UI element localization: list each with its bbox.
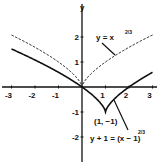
x-tick-label: -3 <box>5 91 13 100</box>
x-tick-label: 3 <box>147 91 152 100</box>
series-label-solid: y + 1 = (x − 1) <box>90 134 141 143</box>
series-label-solid-exponent: 2/3 <box>138 129 145 135</box>
x-tick-label: -2 <box>28 91 36 100</box>
x-tick-label: -1 <box>52 91 60 100</box>
y-tick-label: -1 <box>72 108 80 117</box>
y-tick-label: 1 <box>75 58 80 67</box>
chart: -3-2-112321-1-2 y y = x 2/3 y + 1 = (x −… <box>0 0 158 162</box>
dashed-label-leader <box>102 43 115 55</box>
x-tick-label: 1 <box>100 91 105 100</box>
series-label-dashed-exponent: 2/3 <box>125 29 132 35</box>
y-tick-label: 2 <box>75 33 80 42</box>
labels: y = x 2/3 y + 1 = (x − 1) 2/3 (1, −1) <box>90 29 145 143</box>
y-tick-label: -2 <box>72 133 80 142</box>
point-annotation: (1, −1) <box>94 117 118 126</box>
series-label-dashed: y = x <box>96 33 115 42</box>
y-axis-label: y <box>80 3 85 12</box>
x-tick-label: 2 <box>124 91 129 100</box>
